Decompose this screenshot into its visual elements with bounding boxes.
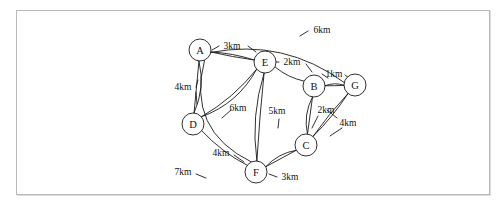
- graph-node-label-A: A: [196, 45, 204, 56]
- edge-weight-label-A-D: 4km: [175, 82, 193, 92]
- edge-weight-label-E-F: 5km: [269, 106, 287, 116]
- label-leader-13: [330, 128, 342, 136]
- label-leader-8: [196, 92, 197, 104]
- label-leader-11: [312, 116, 318, 128]
- edge-weight-label-C-F: 3km: [282, 172, 300, 182]
- graph-edge-B-G-alt: [325, 85, 344, 86]
- graph-node-label-F: F: [253, 167, 259, 178]
- graph-node-label-E: E: [262, 57, 268, 68]
- label-leader-15: [269, 174, 277, 177]
- graph-canvas: AEBGDCF3km2km1km6km4km6km5km2km4km4km3km…: [0, 0, 503, 209]
- edge-weight-label-C-G: 4km: [340, 118, 358, 128]
- edge-weight-label-E-B: 2km: [284, 57, 302, 67]
- label-leader-6: [300, 31, 308, 36]
- edge-weight-label-B-C: 2km: [318, 105, 336, 115]
- diagram-page: AEBGDCF3km2km1km6km4km6km5km2km4km4km3km…: [0, 0, 503, 209]
- graph-edge-A-E-alt: [211, 52, 254, 60]
- edge-weight-label-A-G: 6km: [314, 25, 332, 35]
- label-leader-0: [212, 46, 219, 50]
- label-leader-10: [278, 119, 279, 128]
- edge-weight-label-A-E: 3km: [224, 41, 242, 51]
- edge-weight-label-B-G: 1km: [326, 69, 344, 79]
- graph-node-label-D: D: [189, 119, 197, 130]
- label-leader-16: [196, 174, 206, 178]
- graph-node-label-C: C: [302, 140, 309, 151]
- graph-node-label-B: B: [310, 81, 317, 92]
- edge-weight-label-D-F: 4km: [213, 148, 231, 158]
- label-leader-3: [306, 64, 312, 72]
- edge-weight-label-A-F: 7km: [175, 167, 193, 177]
- edge-weight-label-D-E: 6km: [230, 103, 248, 113]
- graph-edge-C-G: [313, 94, 348, 137]
- graph-edge-C-G-alt: [313, 94, 348, 137]
- graph-edge-E-B: [275, 67, 304, 81]
- graph-edge-C-F-alt: [266, 150, 297, 167]
- graph-edge-A-D: [194, 61, 199, 113]
- graph-node-label-G: G: [351, 80, 359, 91]
